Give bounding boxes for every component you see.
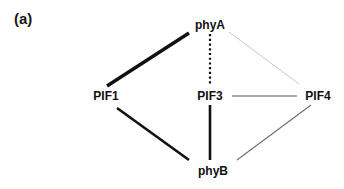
edge-phyA-PIF4: [229, 32, 299, 84]
node-label-PIF3: PIF3: [196, 90, 223, 103]
node-label-PIF1: PIF1: [92, 90, 119, 103]
edge-phyB-PIF4: [237, 105, 311, 160]
network-edge-layer: [0, 0, 344, 189]
node-label-phyB: phyB: [197, 165, 229, 178]
edge-PIF1-phyB: [117, 108, 189, 160]
node-label-PIF4: PIF4: [304, 90, 331, 103]
node-label-phyA: phyA: [194, 19, 226, 32]
edge-phyA-PIF1: [107, 33, 189, 86]
figure-panel: (a) phyAPIF1PIF3PIF4phyB: [0, 0, 344, 189]
